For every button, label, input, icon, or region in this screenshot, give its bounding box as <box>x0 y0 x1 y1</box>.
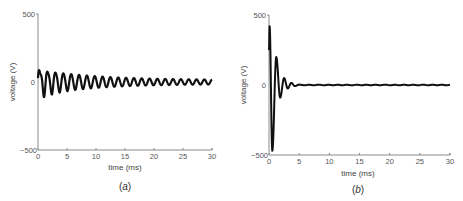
y-tick-label-a-bottom: −500 <box>20 146 37 155</box>
x-tick-label-b: 25 <box>416 157 424 166</box>
y-tick-label-b-mid: 0 <box>262 81 266 90</box>
x-tick-label-b: 30 <box>446 157 454 166</box>
x-tick-label-a: 0 <box>36 152 40 161</box>
y-tick-label-b-top: 500 <box>253 11 266 20</box>
x-tick-label-b: 5 <box>297 157 301 166</box>
y-tick-label-a-mid: 0 <box>31 78 35 87</box>
x-axis-title-a: time (ms) <box>108 163 142 172</box>
x-axis-a: 051015202530 time (ms) <box>36 148 216 172</box>
x-tick-label-b: 10 <box>325 157 333 166</box>
caption-b: (b) <box>352 184 364 195</box>
voltage-line-a <box>38 70 212 97</box>
x-tick-label-a: 25 <box>179 152 187 161</box>
caption-a: (a) <box>119 181 131 192</box>
x-tick-label-a: 10 <box>92 152 100 161</box>
x-tick-label-a: 30 <box>208 152 216 161</box>
y-tick-label-a-top: 500 <box>22 10 35 19</box>
y-axis-title-b: voltage (V) <box>239 65 248 104</box>
x-axis-title-b: time (ms) <box>341 169 375 178</box>
y-tick-label-b-bottom: −500 <box>251 151 268 160</box>
x-tick-label-b: 20 <box>385 157 393 166</box>
figure: 500 0 −500 voltage (V) 051015202530 time… <box>0 0 463 201</box>
chart-panel-b: 500 0 −500 voltage (V) 051015202530 time… <box>239 11 454 195</box>
x-tick-label-a: 20 <box>150 152 158 161</box>
y-axis-title-a: voltage (V) <box>8 62 17 101</box>
y-axis-a: 500 0 −500 voltage (V) <box>8 10 38 155</box>
y-axis-b: 500 0 −500 voltage (V) <box>239 11 269 160</box>
chart-panel-a: 500 0 −500 voltage (V) 051015202530 time… <box>8 10 216 192</box>
x-tick-label-a: 15 <box>121 152 129 161</box>
x-tick-label-b: 15 <box>355 157 363 166</box>
x-axis-b: 051015202530 time (ms) <box>267 153 454 178</box>
x-tick-label-a: 5 <box>65 152 69 161</box>
x-tick-label-b: 0 <box>267 157 271 166</box>
voltage-line-b <box>269 26 450 151</box>
